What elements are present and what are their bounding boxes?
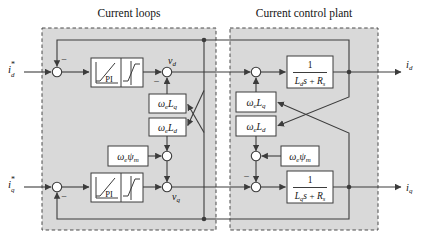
sum-junction-d-error: [52, 67, 61, 76]
plant-d-denominator: Lds+Rs: [294, 76, 326, 87]
iq-tap-dot: [202, 217, 207, 222]
iq-node-dot: [347, 185, 352, 190]
plant-wepsi-block: ωeψm: [281, 146, 319, 166]
minus-sign-s2: −: [154, 76, 160, 87]
id-node-dot: [347, 70, 352, 75]
plant-weLq-block: ωeLq: [236, 92, 276, 112]
sum-junction-vd: [162, 67, 171, 76]
pi-block-d: PI: [91, 58, 143, 87]
plant-q-numerator: 1: [308, 175, 313, 185]
sum-junction-vq: [162, 182, 171, 191]
sum-junction-feedforward: [162, 151, 171, 160]
minus-sign-s8: −: [244, 171, 250, 182]
block-diagram-canvas: Current loops Current control plant: [0, 0, 421, 248]
plant-q-denominator: Lqs+Rs: [294, 191, 326, 202]
sum-junction-plant-emf: [251, 151, 260, 160]
sum-junction-plant-d: [251, 67, 260, 76]
id-output-label: id: [406, 59, 413, 72]
controller-wepsi-block: ωeψm: [108, 146, 148, 166]
pi-q-label: PI: [105, 189, 113, 199]
pmsm-current-control-diagram: Current loops Current control plant: [0, 0, 421, 248]
minus-sign-s3: −: [61, 191, 67, 202]
plant-q-transfer-block: 1 Lqs+Rs: [287, 171, 333, 203]
id-ref-label: i*d: [8, 60, 15, 79]
controller-weLd-block: ωeLd: [149, 118, 186, 136]
iq-ref-label: i*q: [8, 175, 15, 194]
sum-junction-plant-q: [251, 182, 260, 191]
plant-d-transfer-block: 1 Lds+Rs: [287, 56, 333, 88]
plant-weLd-block: ωeLd: [236, 116, 276, 136]
controller-weLq-block: ωeLq: [149, 94, 186, 113]
id-tap-dot: [202, 38, 207, 43]
plant-d-numerator: 1: [308, 60, 313, 70]
title-current-control-plant: Current control plant: [256, 7, 353, 20]
minus-sign-s1: −: [61, 54, 67, 65]
title-current-loops: Current loops: [98, 7, 161, 20]
pi-block-q: PI: [91, 173, 143, 202]
iq-output-label: iq: [406, 182, 413, 195]
pi-d-label: PI: [105, 74, 113, 84]
